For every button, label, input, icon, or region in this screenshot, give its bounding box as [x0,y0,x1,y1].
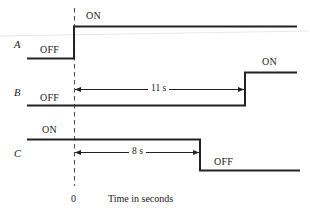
timing-diagram-figure: A B C ON OFF ON OFF ON OFF 11 s 8 s 0 Ti… [0,0,310,216]
waveform-trace-a [27,27,297,59]
waveform-trace-c [27,140,300,171]
trace-label-a: A [14,40,20,51]
duration-label-c: 8 s [129,147,146,157]
state-label-c-off: OFF [214,157,233,167]
state-label-c-on: ON [42,125,57,135]
page-artifact-line [0,31,309,36]
trace-label-b: B [14,88,20,99]
timing-diagram-svg [0,0,310,216]
trace-label-c: C [14,149,21,160]
state-label-b-on: ON [262,57,277,67]
duration-label-b: 11 s [148,84,169,94]
axis-origin-label: 0 [71,194,76,204]
state-label-a-on: ON [86,11,101,21]
state-label-a-off: OFF [40,45,59,55]
axis-title: Time in seconds [108,194,173,204]
state-label-b-off: OFF [40,93,59,103]
